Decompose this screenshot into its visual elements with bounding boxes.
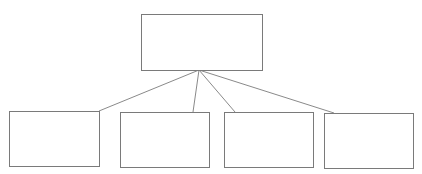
connector-line-1	[99, 70, 199, 111]
child-box-4	[325, 114, 414, 169]
child-box-2	[121, 113, 210, 168]
box-group	[10, 15, 414, 169]
root-box	[142, 15, 263, 71]
diagram-svg	[0, 0, 422, 174]
child-box-1	[10, 112, 100, 167]
org-chart-diagram	[0, 0, 422, 174]
connector-group	[99, 70, 334, 113]
connector-line-2	[193, 70, 199, 112]
connector-line-4	[199, 70, 334, 113]
connector-line-3	[199, 70, 235, 112]
child-box-3	[225, 113, 314, 168]
